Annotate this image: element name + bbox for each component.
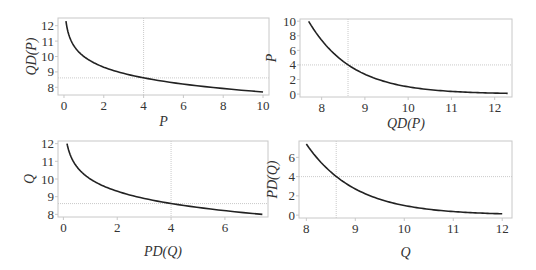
x-axis-label: QD(P)	[387, 116, 425, 132]
y-tick-label: 2	[290, 72, 297, 87]
x-tick-label: 11	[445, 100, 458, 115]
x-tick-label: 8	[303, 221, 310, 236]
x-tick-label: 11	[447, 221, 460, 236]
plot-qd-vs-p: 024681089101112PQD(P)	[24, 18, 270, 129]
x-tick-label: 10	[402, 100, 415, 115]
y-tick-label: 4	[290, 57, 297, 72]
y-tick-label: 2	[289, 188, 296, 203]
x-tick-label: 9	[362, 100, 369, 115]
plot-p-vs-qd: 891011120246810QD(P)P	[264, 14, 512, 132]
x-tick-label: 0	[60, 220, 67, 235]
y-tick-label: 12	[41, 18, 54, 33]
y-tick-label: 6	[289, 150, 296, 165]
y-tick-label: 10	[41, 49, 54, 64]
x-tick-label: 12	[496, 221, 509, 236]
y-tick-label: 10	[283, 14, 296, 29]
x-tick-label: 12	[488, 100, 501, 115]
x-tick-label: 6	[180, 98, 187, 113]
y-axis-label: P	[264, 53, 279, 63]
y-tick-label: 10	[41, 172, 54, 187]
x-axis-label: PD(Q)	[143, 244, 182, 260]
x-axis-label: P	[158, 114, 168, 129]
plot-q-vs-pd: 024689101112PD(Q)Q	[22, 136, 268, 260]
x-tick-label: 9	[352, 221, 359, 236]
data-curve	[309, 21, 508, 93]
y-tick-label: 8	[290, 28, 297, 43]
x-tick-label: 10	[398, 221, 411, 236]
y-tick-label: 4	[289, 169, 296, 184]
x-tick-label: 8	[220, 98, 227, 113]
y-tick-label: 9	[48, 189, 55, 204]
plot-frame	[58, 18, 269, 95]
y-axis-label: Q	[22, 174, 37, 184]
data-curve	[66, 21, 263, 92]
x-tick-label: 8	[318, 100, 325, 115]
y-tick-label: 12	[41, 136, 54, 151]
y-tick-label: 9	[48, 64, 55, 79]
y-tick-label: 11	[41, 34, 54, 49]
y-tick-label: 8	[48, 80, 55, 95]
x-tick-label: 0	[61, 98, 68, 113]
y-tick-label: 0	[289, 208, 296, 223]
x-tick-label: 10	[257, 98, 270, 113]
y-axis-label: QD(P)	[24, 37, 40, 75]
y-tick-label: 6	[290, 43, 297, 58]
y-tick-label: 0	[290, 87, 297, 102]
y-tick-label: 11	[41, 154, 54, 169]
x-axis-label: Q	[400, 245, 410, 260]
x-tick-label: 4	[140, 98, 147, 113]
x-tick-label: 2	[101, 98, 108, 113]
x-tick-label: 2	[114, 220, 121, 235]
x-tick-label: 6	[222, 220, 229, 235]
y-axis-label: PD(Q)	[265, 160, 281, 199]
chart-figure: 024681089101112PQD(P) 891011120246810QD(…	[0, 0, 536, 270]
plot-pd-vs-q: 891011120246QPD(Q)	[265, 141, 512, 260]
x-tick-label: 4	[168, 220, 175, 235]
data-curve	[306, 144, 502, 214]
y-tick-label: 8	[48, 207, 55, 222]
plot-frame	[300, 19, 512, 97]
